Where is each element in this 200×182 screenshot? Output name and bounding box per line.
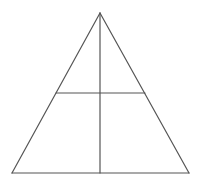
- geometry-figure: [0, 0, 200, 182]
